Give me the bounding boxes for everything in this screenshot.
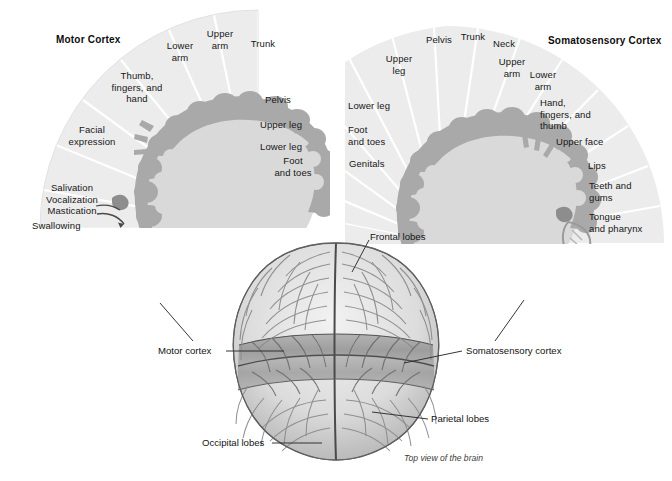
somato-sector-hand-fingers-thumb: Hand, fingers, and thumb (540, 97, 622, 132)
motor-sector-swallowing: Swallowing (32, 220, 106, 232)
motor-sector-upper-leg: Upper leg (260, 119, 326, 131)
callout-frontal-lobes: Frontal lobes (370, 231, 425, 242)
callout-motor-cortex: Motor cortex (158, 345, 211, 356)
somato-sector-upper-leg: Upper leg (376, 53, 422, 76)
motor-sector-facial-expression: Facial expression (57, 124, 127, 147)
motor-sector-thumb-fingers-hand: Thumb, fingers, and hand (98, 70, 176, 105)
callout-somatosensory-cortex: Somatosensory cortex (466, 345, 561, 356)
somato-sector-upper-face: Upper face (556, 136, 632, 148)
somato-sector-neck: Neck (483, 38, 525, 50)
motor-sector-trunk: Trunk (240, 38, 286, 50)
callout-occipital-lobes: Occipital lobes (202, 437, 264, 448)
motor-sector-lower-arm: Lower arm (159, 40, 201, 63)
motor-sector-upper-arm: Upper arm (199, 28, 241, 51)
callout-parietal-lobes: Parietal lobes (431, 413, 489, 424)
somato-sector-genitals: Genitals (349, 158, 413, 170)
figure-caption: Top view of the brain (404, 453, 483, 463)
brain-top-view (233, 243, 438, 460)
somato-sector-teeth-and-gums: Teeth and gums (589, 180, 661, 203)
somato-sector-lower-leg: Lower leg (348, 100, 416, 112)
somato-sector-foot-and-toes: Foot and toes (348, 124, 414, 147)
somatosensory-cortex-title: Somatosensory Cortex (548, 35, 661, 46)
motor-cortex-title: Motor Cortex (56, 34, 121, 45)
somato-sector-lower-arm: Lower arm (521, 69, 565, 92)
motor-sector-foot-and-toes: Foot and toes (262, 155, 324, 178)
motor-sector-pelvis: Pelvis (265, 94, 319, 106)
motor-sector-salivation-vocalization-mastication: Salivation Vocalization Mastication (34, 182, 110, 217)
figure-canvas: Motor Cortex Somatosensory Cortex Trunk … (0, 0, 672, 481)
motor-sector-lower-leg: Lower leg (260, 141, 326, 153)
somato-sector-tongue-and-pharynx: Tongue and pharynx (589, 211, 667, 234)
somato-sector-lips: Lips (588, 160, 628, 172)
